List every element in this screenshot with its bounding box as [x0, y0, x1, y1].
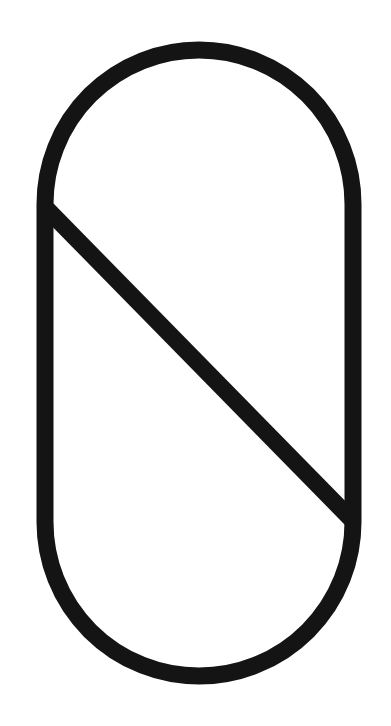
diagonal-line: [45, 207, 353, 521]
diagram-canvas: [0, 0, 391, 726]
pill-with-diagonal-icon: [0, 0, 391, 726]
